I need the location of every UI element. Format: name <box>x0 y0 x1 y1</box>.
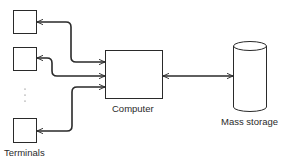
mass-storage-label: Mass storage <box>221 117 278 127</box>
edge-terminal-2-computer <box>37 58 105 76</box>
terminal-2-box <box>14 48 37 71</box>
mass-storage-cylinder <box>234 42 267 112</box>
diagram-canvas <box>0 0 286 165</box>
computer-label: Computer <box>112 104 154 114</box>
computer-box <box>106 51 163 99</box>
terminal-1-box <box>14 11 37 34</box>
edge-terminal-1-computer <box>37 22 105 62</box>
ellipsis-dots <box>24 88 25 101</box>
edge-terminal-3-computer <box>37 87 105 131</box>
terminal-3-box <box>14 119 37 143</box>
terminals-label: Terminals <box>4 148 45 158</box>
